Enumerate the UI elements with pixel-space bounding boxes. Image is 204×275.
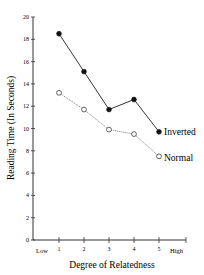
data-point-normal — [57, 90, 62, 95]
data-point-inverted — [82, 69, 87, 74]
x-high-label: High — [170, 247, 184, 254]
data-point-normal — [132, 132, 137, 137]
series-line-normal — [59, 93, 159, 157]
x-tick-label: 4 — [133, 246, 136, 252]
data-point-inverted — [57, 31, 62, 36]
data-point-inverted — [107, 107, 112, 112]
series-layer — [57, 31, 162, 158]
y-tick-label: 14 — [23, 81, 29, 87]
data-point-inverted — [132, 97, 137, 102]
y-tick-label: 20 — [23, 14, 29, 20]
y-tick-label: 16 — [23, 59, 29, 65]
y-axis-title: Reading Time (In Seconds) — [6, 76, 17, 180]
series-line-inverted — [59, 34, 159, 132]
data-point-normal — [107, 127, 112, 132]
x-tick-label: 2 — [83, 246, 86, 252]
x-tick-label: 5 — [158, 246, 161, 252]
x-low-label: Low — [36, 247, 48, 254]
reading-time-chart: 0246810121416182012345 Reading Time (In … — [0, 0, 204, 275]
data-point-normal — [157, 154, 162, 159]
axes: 0246810121416182012345 — [23, 14, 186, 252]
y-tick-label: 2 — [26, 215, 29, 221]
y-tick-label: 6 — [26, 170, 29, 176]
legend-normal: Normal — [164, 153, 193, 163]
x-tick-label: 3 — [108, 246, 111, 252]
x-tick-label: 1 — [58, 246, 61, 252]
y-tick-label: 12 — [23, 103, 29, 109]
y-tick-label: 0 — [26, 237, 29, 243]
y-tick-label: 18 — [23, 36, 29, 42]
y-tick-label: 8 — [26, 148, 29, 154]
y-tick-label: 4 — [26, 192, 29, 198]
data-point-inverted — [157, 129, 162, 134]
y-tick-label: 10 — [23, 126, 29, 132]
x-axis-title: Degree of Relatedness — [69, 260, 155, 270]
data-point-normal — [82, 107, 87, 112]
legend-inverted: Inverted — [164, 127, 196, 137]
